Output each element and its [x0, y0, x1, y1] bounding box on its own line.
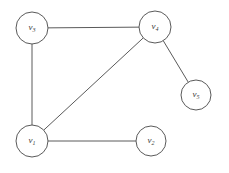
node-v2[interactable]: v2 [136, 126, 166, 156]
node-v1[interactable]: v1 [16, 125, 48, 157]
edges-layer [32, 27, 188, 141]
nodes-layer: v1v2v3v4v5 [16, 11, 211, 157]
edge-v1-v4 [44, 38, 144, 130]
node-v3[interactable]: v3 [16, 12, 48, 44]
graph-diagram: v1v2v3v4v5 [0, 0, 229, 173]
edge-v4-v5 [163, 41, 188, 82]
edge-v3-v4 [48, 27, 139, 28]
node-v5[interactable]: v5 [181, 80, 211, 110]
graph-diagram-canvas: v1v2v3v4v5 [0, 0, 229, 173]
node-v4[interactable]: v4 [139, 11, 171, 43]
